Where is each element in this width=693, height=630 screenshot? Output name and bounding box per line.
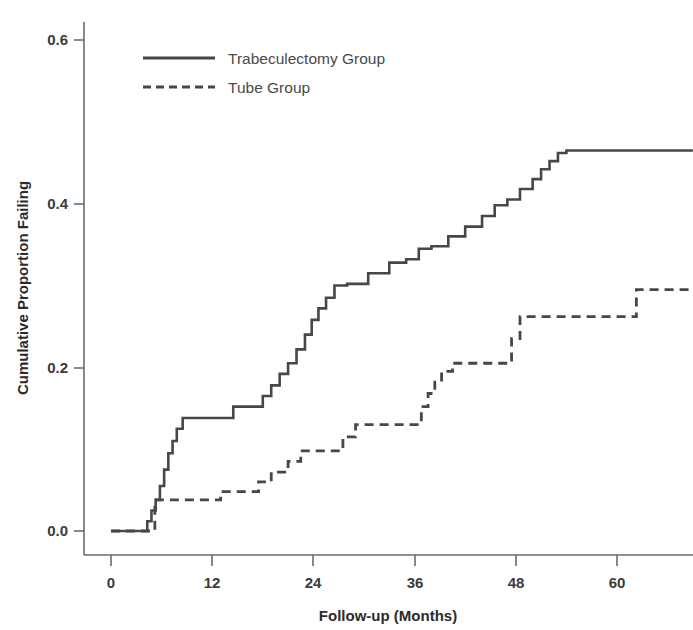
- y-tick-label-0: 0.6: [47, 31, 68, 48]
- x-tick-label-1: 12: [204, 574, 221, 591]
- x-tick-label-2: 24: [305, 574, 322, 591]
- x-tick-label-0: 0: [107, 574, 115, 591]
- y-tick-label-2: 0.2: [47, 359, 68, 376]
- chart-legend: Trabeculectomy Group Tube Group: [143, 50, 385, 96]
- x-tick-label-3: 36: [407, 574, 424, 591]
- y-axis-title: Cumulative Proportion Failing: [14, 181, 31, 395]
- chart-canvas: 0.6 0.4 0.2 0.0 0 12 24 36 48 60 Follow-…: [0, 0, 693, 630]
- x-tick-label-4: 48: [508, 574, 525, 591]
- series-line-trabeculectomy: [111, 150, 693, 531]
- x-tick-label-5: 60: [609, 574, 626, 591]
- legend-label-trabeculectomy: Trabeculectomy Group: [228, 50, 385, 67]
- x-axis-title: Follow-up (Months): [319, 607, 457, 624]
- y-tick-label-1: 0.4: [47, 195, 69, 212]
- legend-label-tube: Tube Group: [228, 79, 310, 96]
- y-tick-label-3: 0.0: [47, 522, 68, 539]
- series-line-tube: [111, 290, 693, 531]
- kaplan-meier-figure: 0.6 0.4 0.2 0.0 0 12 24 36 48 60 Follow-…: [0, 0, 693, 630]
- y-axis-ticks: [74, 40, 84, 531]
- x-axis-ticks: [111, 555, 617, 566]
